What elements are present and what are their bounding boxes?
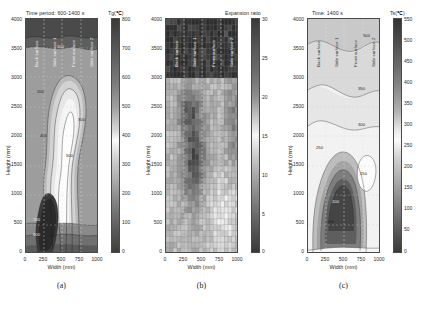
panel-c-surface-label-0: Back surface <box>316 40 321 67</box>
panel-b-ytick-1: 3500 <box>141 45 162 51</box>
panel-a-xtick-2: 500 <box>54 256 68 262</box>
panel-c-cbtick-7: 200 <box>404 163 412 169</box>
panel-c-plot[interactable]: Back surface Side surface 1 Front surfac… <box>307 18 380 253</box>
panel-a-cbtick-5: 300 <box>122 161 130 167</box>
panel-b-cbtick-5: 5 <box>262 211 265 217</box>
panel-c: Time: 1400 s Ts(℃) 4000 3500 3000 2500 2… <box>282 0 428 309</box>
panel-a-title: Time period: 600-1400 s <box>26 10 84 16</box>
figure-root: Time period: 600-1400 s Tg(℃) 4000 3500 … <box>0 0 428 309</box>
panel-a-cbtick-3: 500 <box>122 103 130 109</box>
panel-b-ytick-2: 3000 <box>141 74 162 80</box>
panel-a-xtick-0: 0 <box>18 256 32 262</box>
panel-b-xtick-0: 0 <box>158 256 172 262</box>
panel-b-cbtick-2: 20 <box>262 94 268 100</box>
panel-c-cbtick-0: 550 <box>404 16 412 22</box>
panel-c-xtick-3: 750 <box>354 256 368 262</box>
panel-b-ytick-6: 1000 <box>141 190 162 196</box>
panel-a-contour-label-4: 300 <box>78 117 85 122</box>
panel-c-xlabel: Width (mm) <box>307 264 380 270</box>
panel-c-cbtick-1: 500 <box>404 37 412 43</box>
panel-c-cbtick-10: 50 <box>404 226 410 232</box>
panel-b-ylabel: Height (mm) <box>145 145 151 175</box>
panel-b-ytick-4: 2000 <box>141 132 162 138</box>
panel-a-cbtick-7: 100 <box>122 219 130 225</box>
panel-b-cbtick-0: 30 <box>262 16 268 22</box>
panel-a-ytick-6: 1000 <box>1 190 22 196</box>
panel-c-title: Time: 1400 s <box>312 10 343 16</box>
panel-a-contour-label-3: 400 <box>40 133 47 138</box>
panel-b-xtick-1: 250 <box>176 256 190 262</box>
panel-b-cbtick-3: 15 <box>262 133 268 139</box>
panel-b-surface-label-2: Front surface <box>211 40 216 67</box>
panel-c-surface-label-2: Front surface <box>353 40 358 67</box>
panel-c-cbtick-6: 250 <box>404 142 412 148</box>
panel-b-colorbar <box>251 18 260 253</box>
panel-c-ytick-7: 500 <box>283 219 304 225</box>
panel-b-xtick-3: 750 <box>212 256 226 262</box>
panel-a-cbtick-2: 600 <box>122 74 130 80</box>
panel-c-ytick-4: 2000 <box>283 132 304 138</box>
panel-a-contour-label-0: 700 <box>33 217 40 222</box>
panel-c-cbtick-5: 300 <box>404 121 412 127</box>
panel-c-contour-label-3: 250 <box>316 145 323 150</box>
panel-a-ytick-7: 500 <box>1 219 22 225</box>
panel-c-cbtick-8: 150 <box>404 184 412 190</box>
panel-c-ylabel: Height (mm) <box>287 145 293 175</box>
panel-a-cbtick-1: 700 <box>122 45 130 51</box>
panel-a-contour-label-2: 500 <box>66 153 73 158</box>
panel-a-ytick-3: 2500 <box>1 103 22 109</box>
panel-b-cbtick-1: 25 <box>262 55 268 61</box>
panel-a: Time period: 600-1400 s Tg(℃) 4000 3500 … <box>0 0 140 309</box>
panel-c-contour-label-1: 350 <box>358 86 365 91</box>
panel-b-cbtick-4: 10 <box>262 172 268 178</box>
panel-b-xtick-2: 500 <box>194 256 208 262</box>
panel-c-contour-label-6: 100 <box>327 219 334 224</box>
panel-b-ytick-8: 0 <box>141 248 162 254</box>
panel-c-xtick-0: 0 <box>300 256 314 262</box>
panel-a-xtick-3: 750 <box>72 256 86 262</box>
panel-b-cbtick-6: 0 <box>262 248 265 254</box>
panel-a-ylabel: Height (mm) <box>5 145 11 175</box>
panel-a-surface-label-2: Front surface <box>71 40 76 67</box>
panel-b-surface-label-1: Side surface 1 <box>192 38 197 67</box>
panel-b-ytick-3: 2500 <box>141 103 162 109</box>
panel-a-colorbar <box>111 18 120 253</box>
panel-c-caption: (c) <box>307 281 380 290</box>
panel-b-colorbar-title: Expansion ratio <box>225 10 261 16</box>
panel-a-contour-label-5: 200 <box>37 89 44 94</box>
panel-b-ytick-0: 4000 <box>141 16 162 22</box>
panel-c-cbtick-11: 0 <box>404 248 407 254</box>
panel-a-xtick-1: 250 <box>36 256 50 262</box>
panel-c-cbtick-9: 100 <box>404 205 412 211</box>
panel-c-ytick-3: 2500 <box>283 103 304 109</box>
panel-c-xtick-2: 500 <box>336 256 350 262</box>
panel-c-xtick-4: 1000 <box>371 256 387 262</box>
panel-a-surface-label-0: Back surface <box>34 40 39 67</box>
panel-a-ytick-1: 3500 <box>1 45 22 51</box>
panel-a-ytick-2: 3000 <box>1 74 22 80</box>
panel-b-xtick-4: 1000 <box>229 256 245 262</box>
panel-b-surface-label-3: Side surface 2 <box>229 38 234 67</box>
panel-c-xtick-1: 250 <box>318 256 332 262</box>
panel-c-ytick-1: 3500 <box>283 45 304 51</box>
panel-a-ytick-4: 2000 <box>1 132 22 138</box>
panel-c-contour-label-4: 200 <box>332 199 339 204</box>
panel-a-cbtick-6: 200 <box>122 190 130 196</box>
panel-a-ytick-0: 4000 <box>1 16 22 22</box>
panel-a-xlabel: Width (mm) <box>25 264 98 270</box>
panel-a-contour-label-6: 100 <box>57 44 64 49</box>
panel-c-cbtick-3: 400 <box>404 79 412 85</box>
panel-a-cbtick-4: 400 <box>122 132 130 138</box>
panel-c-colorbar <box>393 18 402 253</box>
panel-c-contour-label-5: 150 <box>360 171 367 176</box>
panel-a-surface-label-3: Side surface 2 <box>89 38 94 67</box>
panel-b-plot[interactable]: Back surface Side surface 1 Front surfac… <box>165 18 238 253</box>
panel-c-cbtick-2: 450 <box>404 58 412 64</box>
panel-a-cbtick-0: 800 <box>122 16 130 22</box>
panel-a-cbtick-8: 0 <box>122 248 125 254</box>
panel-b-caption: (b) <box>165 281 238 290</box>
panel-a-plot[interactable]: Back surface Side surface 1 Front surfac… <box>25 18 98 253</box>
panel-a-ytick-8: 0 <box>1 248 22 254</box>
panel-b-surface-label-0: Back surface <box>174 40 179 67</box>
panel-a-surface-label-1: Side surface 1 <box>52 38 57 67</box>
